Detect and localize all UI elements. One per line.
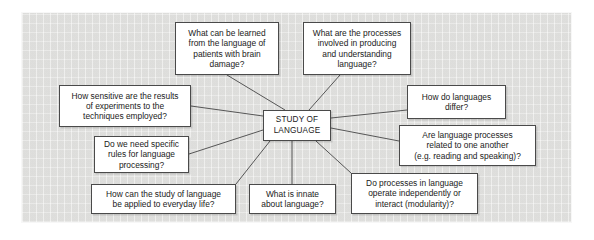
question-node-label: How sensitive are the results of experim… <box>71 91 178 122</box>
diagram-stage: STUDY OF LANGUAGEWhat can be learned fro… <box>0 0 594 240</box>
question-node-label: What are the processes involved in produ… <box>313 28 401 69</box>
question-node-label: Do processes in language operate indepen… <box>366 178 463 209</box>
question-node-label: How can the study of language be applied… <box>106 189 221 210</box>
question-node-sensitive-experiments[interactable]: How sensitive are the results of experim… <box>59 85 191 127</box>
question-node-innate-language[interactable]: What is innate about language? <box>249 184 336 214</box>
question-node-processes-producing-understanding[interactable]: What are the processes involved in produ… <box>303 22 411 75</box>
question-node-label: What can be learned from the language of… <box>188 28 265 69</box>
question-node-modularity[interactable]: Do processes in language operate indepen… <box>351 173 478 214</box>
question-node-processes-related[interactable]: Are language processes related to one an… <box>399 125 536 166</box>
question-node-label: What is innate about language? <box>261 189 323 210</box>
question-node-label: Are language processes related to one an… <box>414 130 521 161</box>
question-node-label: How do languages differ? <box>422 92 491 113</box>
question-node-how-languages-differ[interactable]: How do languages differ? <box>407 85 506 119</box>
center-node-study-of-language[interactable]: STUDY OF LANGUAGE <box>263 110 331 141</box>
center-node-label: STUDY OF LANGUAGE <box>274 115 321 136</box>
question-node-label: Do we need specific rules for language p… <box>104 139 179 170</box>
question-node-brain-damage[interactable]: What can be learned from the language of… <box>175 22 279 75</box>
question-node-everyday-life[interactable]: How can the study of language be applied… <box>91 184 236 214</box>
question-node-specific-rules[interactable]: Do we need specific rules for language p… <box>94 136 189 173</box>
